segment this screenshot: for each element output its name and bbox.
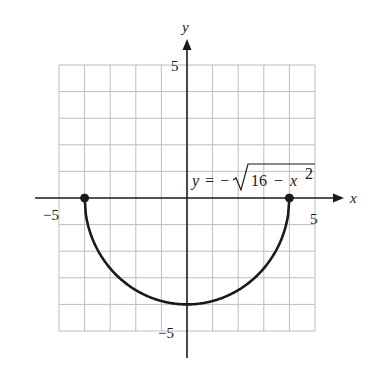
svg-text:16 − x: 16 − x	[251, 172, 297, 189]
eq-radicand-const: 16	[251, 172, 267, 189]
eq-radicand-op: −	[274, 172, 283, 189]
svg-text:y = −: y = −	[190, 172, 229, 190]
eq-minus: −	[220, 172, 229, 189]
y-axis-label: y	[180, 19, 189, 35]
semicircle-graph: x y −5 5 5 −5 y = − 16 − x 2	[0, 0, 370, 367]
y-tick-pos5: 5	[171, 58, 179, 74]
x-axis-label: x	[349, 190, 357, 206]
eq-lhs: y	[190, 172, 200, 190]
endpoint-dot	[285, 194, 293, 202]
y-tick-neg5: −5	[158, 325, 174, 341]
eq-radicand-var: x	[289, 172, 297, 189]
equation-label: y = − 16 − x 2	[190, 164, 315, 190]
x-tick-pos5: 5	[310, 211, 318, 227]
y-axis-arrow-icon	[183, 39, 192, 50]
endpoint-dot	[81, 194, 89, 202]
eq-exponent: 2	[305, 165, 313, 182]
eq-equals: =	[205, 172, 214, 189]
x-axis-arrow-icon	[333, 194, 344, 203]
x-tick-neg5: −5	[43, 207, 59, 223]
